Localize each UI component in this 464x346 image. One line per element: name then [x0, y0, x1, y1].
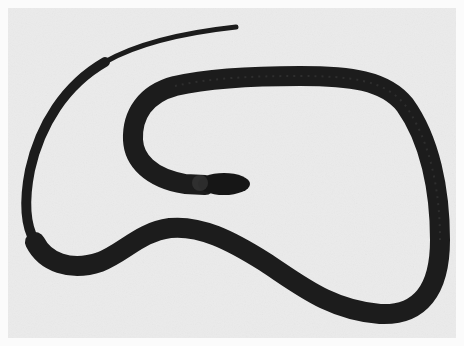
snake-illustration [0, 0, 464, 346]
snake-photo [0, 0, 464, 346]
